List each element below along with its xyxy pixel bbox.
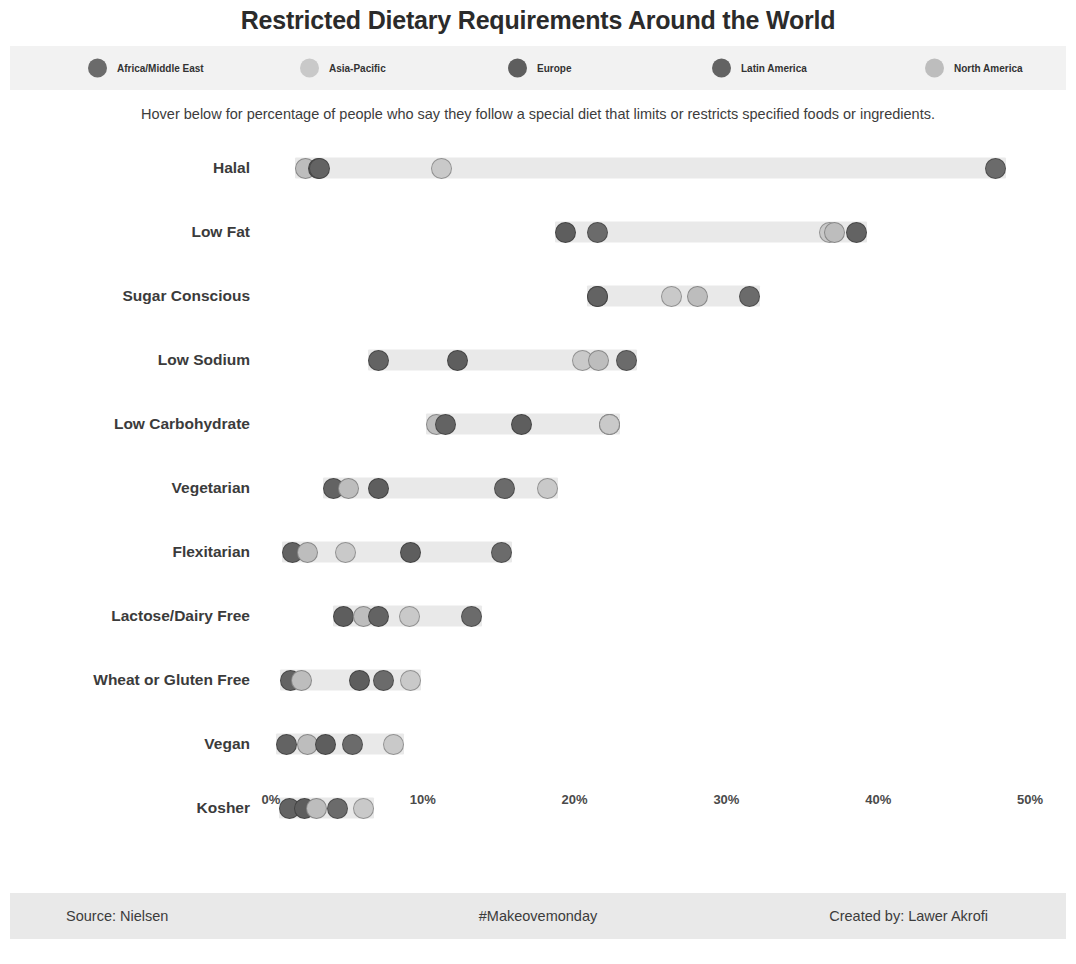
- legend-swatch-dot-icon: [300, 59, 319, 78]
- plot-row[interactable]: Vegetarian: [0, 456, 1076, 520]
- data-point-dot[interactable]: [400, 542, 421, 563]
- plot-row[interactable]: Wheat or Gluten Free: [0, 648, 1076, 712]
- legend: Africa/Middle EastAsia-PacificEuropeLati…: [10, 46, 1066, 90]
- data-point-dot[interactable]: [349, 670, 370, 691]
- legend-item-europe[interactable]: Europe: [508, 59, 571, 78]
- legend-swatch-dot-icon: [712, 59, 731, 78]
- legend-label: Europe: [537, 63, 571, 74]
- plot-row[interactable]: Low Sodium: [0, 328, 1076, 392]
- plot-row[interactable]: Halal: [0, 136, 1076, 200]
- data-point-dot[interactable]: [824, 222, 845, 243]
- row-label: Halal: [0, 159, 250, 177]
- data-point-dot[interactable]: [309, 158, 330, 179]
- row-label: Flexitarian: [0, 543, 250, 561]
- data-point-dot[interactable]: [291, 670, 312, 691]
- data-point-dot[interactable]: [431, 158, 452, 179]
- x-axis-tick-label: 40%: [865, 792, 891, 807]
- legend-item-africa-middle-east[interactable]: Africa/Middle East: [88, 59, 204, 78]
- data-point-dot[interactable]: [315, 734, 336, 755]
- legend-label: Africa/Middle East: [117, 63, 204, 74]
- data-point-dot[interactable]: [297, 542, 318, 563]
- page-title: Restricted Dietary Requirements Around t…: [0, 0, 1076, 38]
- x-axis-tick-label: 50%: [1017, 792, 1043, 807]
- legend-label: Latin America: [741, 63, 807, 74]
- data-point-dot[interactable]: [447, 350, 468, 371]
- x-axis-tick-label: 10%: [410, 792, 436, 807]
- row-label: Low Carbohydrate: [0, 415, 250, 433]
- data-point-dot[interactable]: [511, 414, 532, 435]
- data-point-dot[interactable]: [338, 478, 359, 499]
- plot-row[interactable]: Vegan: [0, 712, 1076, 776]
- row-label: Sugar Conscious: [0, 287, 250, 305]
- data-point-dot[interactable]: [383, 734, 404, 755]
- data-point-dot[interactable]: [342, 734, 363, 755]
- data-point-dot[interactable]: [599, 414, 620, 435]
- footer-source: Source: Nielsen: [66, 908, 168, 924]
- data-point-dot[interactable]: [661, 286, 682, 307]
- plot-row[interactable]: Low Carbohydrate: [0, 392, 1076, 456]
- data-point-dot[interactable]: [435, 414, 456, 435]
- data-point-dot[interactable]: [373, 670, 394, 691]
- data-point-dot[interactable]: [616, 350, 637, 371]
- row-track: [295, 158, 1005, 179]
- footer-hashtag: #Makeovemonday: [479, 908, 598, 924]
- x-axis-tick-label: 0%: [262, 792, 281, 807]
- dot-plot: HalalLow FatSugar ConsciousLow SodiumLow…: [0, 136, 1076, 796]
- data-point-dot[interactable]: [400, 670, 421, 691]
- row-label: Vegetarian: [0, 479, 250, 497]
- row-label: Wheat or Gluten Free: [0, 671, 250, 689]
- data-point-dot[interactable]: [739, 286, 760, 307]
- data-point-dot[interactable]: [846, 222, 867, 243]
- footer-credit: Created by: Lawer Akrofi: [829, 908, 988, 924]
- plot-row[interactable]: Sugar Conscious: [0, 264, 1076, 328]
- legend-item-north-america[interactable]: North America: [925, 59, 1023, 78]
- data-point-dot[interactable]: [461, 606, 482, 627]
- legend-swatch-dot-icon: [88, 59, 107, 78]
- legend-item-latin-america[interactable]: Latin America: [712, 59, 807, 78]
- plot-row[interactable]: Low Fat: [0, 200, 1076, 264]
- row-label: Low Fat: [0, 223, 250, 241]
- data-point-dot[interactable]: [587, 286, 608, 307]
- data-point-dot[interactable]: [588, 350, 609, 371]
- data-point-dot[interactable]: [587, 222, 608, 243]
- data-point-dot[interactable]: [368, 606, 389, 627]
- footer-bar: Source: Nielsen #Makeovemonday Created b…: [10, 893, 1066, 939]
- data-point-dot[interactable]: [491, 542, 512, 563]
- legend-swatch-dot-icon: [508, 59, 527, 78]
- data-point-dot[interactable]: [399, 606, 420, 627]
- x-axis: 0%10%20%30%40%50%: [0, 792, 1076, 822]
- data-point-dot[interactable]: [494, 478, 515, 499]
- chart-container: Restricted Dietary Requirements Around t…: [0, 0, 1076, 822]
- plot-row[interactable]: Lactose/Dairy Free: [0, 584, 1076, 648]
- data-point-dot[interactable]: [368, 478, 389, 499]
- legend-label: Asia-Pacific: [329, 63, 386, 74]
- data-point-dot[interactable]: [687, 286, 708, 307]
- data-point-dot[interactable]: [276, 734, 297, 755]
- data-point-dot[interactable]: [333, 606, 354, 627]
- row-label: Low Sodium: [0, 351, 250, 369]
- data-point-dot[interactable]: [368, 350, 389, 371]
- plot-row[interactable]: Flexitarian: [0, 520, 1076, 584]
- legend-item-asia-pacific[interactable]: Asia-Pacific: [300, 59, 386, 78]
- legend-swatch-dot-icon: [925, 59, 944, 78]
- row-label: Vegan: [0, 735, 250, 753]
- data-point-dot[interactable]: [555, 222, 576, 243]
- chart-subtitle: Hover below for percentage of people who…: [0, 106, 1076, 122]
- data-point-dot[interactable]: [335, 542, 356, 563]
- row-label: Lactose/Dairy Free: [0, 607, 250, 625]
- data-point-dot[interactable]: [985, 158, 1006, 179]
- data-point-dot[interactable]: [537, 478, 558, 499]
- x-axis-tick-label: 20%: [562, 792, 588, 807]
- legend-label: North America: [954, 63, 1023, 74]
- x-axis-tick-label: 30%: [713, 792, 739, 807]
